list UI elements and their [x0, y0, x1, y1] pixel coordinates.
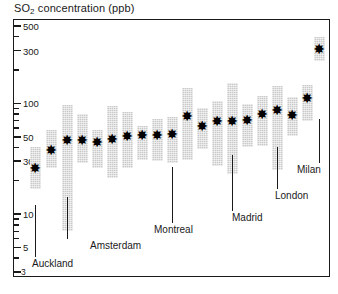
median-marker-icon: ✸ [91, 135, 103, 149]
median-marker-icon: ✸ [45, 143, 57, 157]
y-tick-minor [14, 113, 19, 114]
y-tick-major [14, 136, 21, 138]
y-tick-minor [14, 147, 19, 148]
plot-area: 50030010050301053 ✸✸✸✸✸✸✸✸✸✸✸✸✸✸✸✸✸✸✸✸ A… [13, 19, 330, 277]
median-marker-icon: ✸ [286, 108, 298, 122]
y-tick-major [14, 103, 21, 105]
y-tick-label: 3 [21, 267, 26, 277]
chart-title: SO2 concentration (ppb) [14, 2, 135, 16]
y-tick-major [14, 160, 21, 162]
median-marker-icon: ✸ [136, 128, 148, 142]
annotation-leader-line [319, 119, 320, 163]
y-tick-major [14, 247, 21, 249]
y-tick-minor [14, 108, 19, 109]
median-marker-icon: ✸ [29, 161, 41, 175]
median-marker-icon: ✸ [196, 119, 208, 133]
median-marker-icon: ✸ [181, 109, 193, 123]
median-marker-icon: ✸ [106, 132, 118, 146]
y-tick-label: 100 [23, 98, 39, 109]
y-tick-minor [14, 257, 19, 258]
annotation-leader-line [172, 167, 173, 223]
city-label-amsterdam: Amsterdam [90, 240, 141, 251]
median-marker-icon: ✸ [151, 128, 163, 142]
y-tick-label: 500 [23, 21, 39, 32]
annotation-leader-line [232, 155, 233, 211]
y-tick-label: 10 [23, 209, 34, 220]
city-label-auckland: Auckland [32, 258, 73, 269]
median-marker-icon: ✸ [256, 107, 268, 121]
y-tick-minor [14, 127, 19, 128]
range-bar [212, 101, 223, 166]
y-tick-minor [14, 238, 19, 239]
median-marker-icon: ✸ [241, 113, 253, 127]
annotation-leader-line [35, 205, 36, 257]
chart-root: SO2 concentration (ppb) 5003001005030105… [0, 0, 338, 294]
y-tick-minor [14, 120, 19, 121]
y-tick-minor [14, 180, 19, 181]
city-label-milan: Milan [297, 164, 321, 175]
y-tick-label: 5 [23, 242, 28, 253]
title-subscript: 2 [30, 7, 35, 16]
y-tick-minor [14, 36, 19, 37]
city-label-madrid: Madrid [232, 212, 263, 223]
median-marker-icon: ✸ [121, 129, 133, 143]
median-marker-icon: ✸ [226, 114, 238, 128]
median-marker-icon: ✸ [76, 133, 88, 147]
median-marker-icon: ✸ [211, 114, 223, 128]
city-label-london: London [275, 190, 308, 201]
y-tick-minor [14, 231, 19, 232]
y-tick-major [14, 50, 21, 52]
y-tick-label: 300 [23, 45, 39, 56]
range-bar [182, 88, 193, 159]
city-label-montreal: Montreal [154, 224, 193, 235]
annotation-leader-line [277, 147, 278, 189]
y-tick-major [14, 25, 21, 27]
y-tick-major [14, 271, 21, 273]
median-marker-icon: ✸ [313, 42, 325, 56]
median-marker-icon: ✸ [271, 103, 283, 117]
y-tick-label: 50 [23, 131, 34, 142]
y-tick-major [14, 213, 21, 215]
annotation-leader-line [67, 197, 68, 239]
median-marker-icon: ✸ [61, 133, 73, 147]
y-tick-minor [14, 69, 19, 70]
y-tick-minor [14, 218, 19, 219]
median-marker-icon: ✸ [166, 127, 178, 141]
y-tick-minor [14, 224, 19, 225]
median-marker-icon: ✸ [301, 91, 313, 105]
